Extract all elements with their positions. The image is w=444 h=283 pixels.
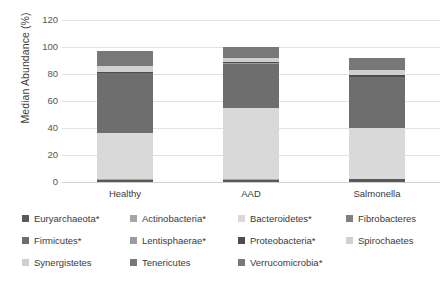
bar-segment[interactable] xyxy=(223,180,279,182)
y-axis-tick-label: 80 xyxy=(28,69,58,79)
legend-swatch-icon xyxy=(22,237,29,244)
bar-group[interactable] xyxy=(223,0,279,200)
legend-swatch-icon xyxy=(22,215,29,222)
y-axis-tick-label: 40 xyxy=(28,123,58,133)
legend-item[interactable]: Tenericutes xyxy=(130,251,191,273)
legend-label: Fibrobacteres xyxy=(358,213,416,224)
bar-segment[interactable] xyxy=(349,179,405,182)
legend-label: Proteobacteria* xyxy=(250,235,315,246)
bar-segment[interactable] xyxy=(349,58,405,69)
legend-item[interactable]: Proteobacteria* xyxy=(238,229,315,251)
x-axis-tick-label: Salmonella xyxy=(317,188,437,199)
bar-stack xyxy=(349,58,405,182)
legend-label: Euryarchaeota* xyxy=(34,213,99,224)
y-axis-tick-label: 60 xyxy=(28,96,58,106)
legend-item[interactable]: Actinobacteria* xyxy=(130,207,206,229)
legend-row: Firmicutes*Lentisphaerae*Proteobacteria*… xyxy=(22,229,434,251)
bar-group[interactable] xyxy=(97,0,153,200)
legend-swatch-icon xyxy=(130,259,137,266)
legend-label: Lentisphaerae* xyxy=(142,235,206,246)
bar-segment[interactable] xyxy=(223,47,279,57)
bar-stack xyxy=(97,51,153,182)
bar-segment[interactable] xyxy=(223,64,279,109)
legend-label: Firmicutes* xyxy=(34,235,82,246)
y-axis-tick-labels: 120100806040200 xyxy=(28,0,58,200)
legend-label: Spirochaetes xyxy=(358,235,413,246)
legend-item[interactable]: Firmicutes* xyxy=(22,229,82,251)
plot-area: Median Abundance (%) 120100806040200 Hea… xyxy=(0,0,444,200)
legend-label: Tenericutes xyxy=(142,257,191,268)
legend-swatch-icon xyxy=(130,237,137,244)
y-axis-tick-label: 100 xyxy=(28,42,58,52)
bar-segment[interactable] xyxy=(97,73,153,132)
legend-label: Verrucomicrobia* xyxy=(250,257,322,268)
bar-segment[interactable] xyxy=(223,108,279,179)
bars-layer xyxy=(62,0,440,200)
bar-segment[interactable] xyxy=(97,133,153,180)
legend-label: Bacteroidetes* xyxy=(250,213,312,224)
bar-segment[interactable] xyxy=(349,77,405,128)
bar-segment[interactable] xyxy=(97,51,153,66)
legend-item[interactable]: Bacteroidetes* xyxy=(238,207,312,229)
y-axis-tick-label: 20 xyxy=(28,150,58,160)
legend-item[interactable]: Fibrobacteres xyxy=(346,207,416,229)
legend-item[interactable]: Verrucomicrobia* xyxy=(238,251,322,273)
legend-row: SynergistetesTenericutesVerrucomicrobia* xyxy=(22,251,434,273)
bar-segment[interactable] xyxy=(97,180,153,182)
legend-row: Euryarchaeota*Actinobacteria*Bacteroidet… xyxy=(22,207,434,229)
chart-figure: Median Abundance (%) 120100806040200 Hea… xyxy=(0,0,444,283)
bar-stack xyxy=(223,47,279,182)
legend-label: Synergistetes xyxy=(34,257,92,268)
bar-group[interactable] xyxy=(349,0,405,200)
x-axis-tick-label: AAD xyxy=(191,188,311,199)
y-axis-tick-label: 120 xyxy=(28,15,58,25)
legend-item[interactable]: Synergistetes xyxy=(22,251,92,273)
legend-swatch-icon xyxy=(346,237,353,244)
legend-swatch-icon xyxy=(238,237,245,244)
y-axis-tick-label: 0 xyxy=(28,177,58,187)
legend-label: Actinobacteria* xyxy=(142,213,206,224)
bar-segment[interactable] xyxy=(349,128,405,179)
legend-swatch-icon xyxy=(22,259,29,266)
legend-swatch-icon xyxy=(238,259,245,266)
chart-legend: Euryarchaeota*Actinobacteria*Bacteroidet… xyxy=(22,207,434,279)
legend-item[interactable]: Euryarchaeota* xyxy=(22,207,99,229)
legend-swatch-icon xyxy=(130,215,137,222)
x-axis-tick-label: Healthy xyxy=(65,188,185,199)
legend-item[interactable]: Lentisphaerae* xyxy=(130,229,206,251)
legend-swatch-icon xyxy=(238,215,245,222)
legend-swatch-icon xyxy=(346,215,353,222)
legend-item[interactable]: Spirochaetes xyxy=(346,229,413,251)
